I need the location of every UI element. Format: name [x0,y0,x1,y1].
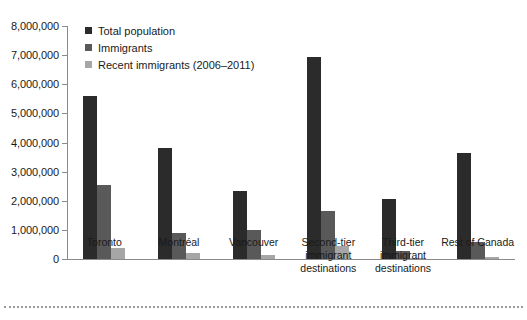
bar[interactable] [485,257,499,259]
y-axis-tick-mark [62,201,67,202]
legend-item[interactable]: Immigrants [85,39,254,56]
y-axis-tick-label: 4,000,000 [11,137,59,149]
legend-swatch-icon [85,27,92,34]
y-axis-tick-label: 6,000,000 [11,78,59,90]
legend-item[interactable]: Total population [85,22,254,39]
y-axis-tick-label: 0 [53,253,59,265]
legend-item[interactable]: Recent immigrants (2006–2011) [85,56,254,73]
legend-swatch-icon [85,44,92,51]
bar[interactable] [307,57,321,259]
y-axis-tick-label: 1,000,000 [11,224,59,236]
y-axis-tick-mark [62,143,67,144]
legend-label: Total population [98,25,175,37]
bar-stack [382,26,424,259]
y-axis-tick-label: 8,000,000 [11,20,59,32]
y-axis-tick-mark [62,26,67,27]
y-axis-tick-mark [62,230,67,231]
x-axis-label: Rest of Canada [432,236,523,249]
bar-stack [457,26,499,259]
y-axis-tick-mark [62,172,67,173]
bar[interactable] [111,248,125,259]
bar[interactable] [83,96,97,259]
bar[interactable] [261,255,275,259]
legend-label: Recent immigrants (2006–2011) [98,59,254,71]
y-axis-tick-mark [62,259,67,260]
y-axis-tick-label: 2,000,000 [11,195,59,207]
y-axis-tick-label: 3,000,000 [11,166,59,178]
y-axis-tick-mark [62,55,67,56]
bar[interactable] [186,253,200,259]
bar-stack [307,26,349,259]
bar-chart-figure: 8,000,0007,000,0006,000,0005,000,0004,00… [0,0,527,320]
y-axis-tick-mark [62,84,67,85]
chart-legend: Total populationImmigrantsRecent immigra… [85,22,254,73]
y-axis-tick-mark [62,113,67,114]
y-axis-tick-label: 5,000,000 [11,107,59,119]
legend-swatch-icon [85,61,92,68]
bottom-divider [4,306,523,308]
y-axis-tick-label: 7,000,000 [11,49,59,61]
legend-label: Immigrants [98,42,152,54]
